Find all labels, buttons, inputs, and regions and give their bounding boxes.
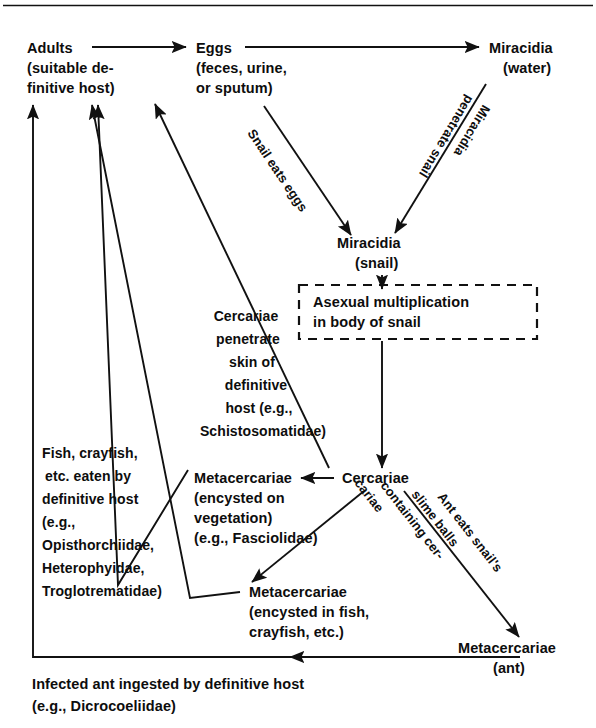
node-miracidia-water: Miracidia (water)	[489, 40, 554, 76]
label-fish-eaten-line-2: etc. eaten by	[45, 468, 131, 484]
node-adults-line-3: finitive host)	[27, 80, 115, 96]
node-miracidia-snail-line-1: Miracidia	[337, 235, 402, 251]
label-cercariae-penetrate-line-4: definitive	[225, 377, 288, 393]
label-fish-eaten-line-3: definitive host	[42, 491, 139, 507]
label-fish-eaten-by-host: Fish, crayfish, etc. eaten by definitive…	[42, 445, 162, 599]
node-asexual-line-1: Asexual multiplication	[313, 294, 469, 310]
node-meta-veg-line-3: vegetation)	[194, 510, 273, 526]
node-miracidia-snail: Miracidia (snail)	[337, 235, 402, 271]
node-eggs: Eggs (feces, urine, or sputum)	[196, 40, 287, 96]
node-meta-ant-line-2: (ant)	[493, 660, 525, 676]
node-adults-line-2: (suitable de-	[27, 60, 114, 76]
label-cercariae-penetrate-line-2: penetrate	[216, 331, 280, 347]
label-infected-ant-line-1: Infected ant ingested by definitive host	[32, 676, 304, 692]
label-infected-ant-ingested: Infected ant ingested by definitive host…	[32, 676, 304, 714]
node-miracidia-snail-line-2: (snail)	[355, 255, 398, 271]
label-fish-eaten-line-6: Heterophyidae,	[42, 560, 145, 576]
label-fish-eaten-line-7: Troglotrematidae)	[42, 583, 162, 599]
life-cycle-diagram: Adults (suitable de- finitive host) Eggs…	[0, 0, 596, 728]
node-asexual-multiplication: Asexual multiplication in body of snail	[299, 285, 537, 339]
node-asexual-line-2: in body of snail	[313, 314, 421, 330]
label-infected-ant-line-2: (e.g., Dicrocoeliidae)	[32, 698, 176, 714]
node-adults-line-1: Adults	[27, 40, 73, 56]
node-meta-ant-line-1: Metacercariae	[458, 640, 556, 656]
label-cercariae-penetrate: Cercariae penetrate skin of definitive h…	[200, 308, 326, 439]
node-meta-veg-line-2: (encysted on	[194, 490, 285, 506]
node-meta-fish-line-3: crayfish, etc.)	[249, 624, 344, 640]
label-ant-eats-slime-balls: Ant eats snail's slime balls containing …	[352, 441, 506, 610]
arrow-meta-vegetation-to-adults	[98, 105, 188, 585]
node-metacercariae-vegetation: Metacercariae (encysted on vegetation) (…	[194, 470, 318, 546]
node-metacercariae-ant: Metacercariae (ant)	[458, 640, 556, 676]
label-snail-eats-eggs: Snail eats eggs	[245, 126, 311, 214]
label-cercariae-penetrate-line-5: host (e.g.,	[225, 400, 292, 416]
node-eggs-line-1: Eggs	[196, 40, 232, 56]
label-snail-eats-eggs-line-1: Snail eats eggs	[245, 126, 311, 214]
label-fish-eaten-line-1: Fish, crayfish,	[42, 445, 138, 461]
label-fish-eaten-line-5: Opisthorchiidae,	[42, 537, 154, 553]
node-miracidia-water-line-2: (water)	[503, 60, 551, 76]
node-metacercariae-fish: Metacercariae (encysted in fish, crayfis…	[249, 584, 369, 640]
label-cercariae-penetrate-line-1: Cercariae	[214, 308, 279, 324]
node-miracidia-water-line-1: Miracidia	[489, 40, 554, 56]
node-eggs-line-3: or sputum)	[196, 80, 273, 96]
label-cercariae-penetrate-line-6: Schistosomatidae)	[200, 423, 326, 439]
node-eggs-line-2: (feces, urine,	[196, 60, 287, 76]
node-meta-fish-line-1: Metacercariae	[249, 584, 347, 600]
node-meta-fish-line-2: (encysted in fish,	[249, 604, 369, 620]
node-adults: Adults (suitable de- finitive host)	[27, 40, 115, 96]
label-cercariae-penetrate-line-3: skin of	[229, 354, 275, 370]
label-fish-eaten-line-4: (e.g.,	[42, 514, 75, 530]
label-miracidia-penetrate-snail: Miracidia penetrate snail	[416, 93, 493, 190]
node-meta-veg-line-1: Metacercariae	[194, 470, 292, 486]
